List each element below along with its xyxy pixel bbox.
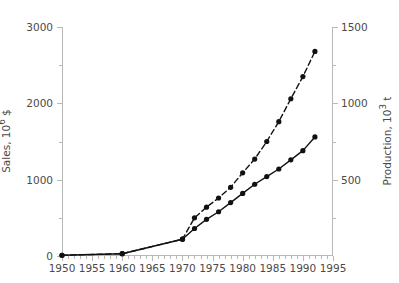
x-tick-minor	[158, 256, 159, 259]
x-tick-minor	[86, 256, 87, 259]
data-point-sales	[216, 195, 221, 200]
data-point-production	[288, 157, 293, 162]
y-tick-label-right: 1000	[341, 97, 368, 109]
data-point-production	[228, 200, 233, 205]
data-point-sales	[252, 156, 257, 161]
y-tick-right	[333, 103, 338, 104]
x-tick-minor	[219, 256, 220, 259]
x-tick-minor	[207, 256, 208, 259]
data-point-production	[59, 253, 64, 258]
x-tick-minor	[68, 256, 69, 259]
data-point-production	[312, 134, 317, 139]
data-point-production	[276, 166, 281, 171]
chart-figure: 0100020003000500100015001950195519601965…	[0, 0, 399, 283]
data-point-sales	[204, 205, 209, 210]
y-axis-right-title: Production, 103 t	[378, 97, 393, 186]
y-axis-right-title-text: Production, 10	[381, 110, 393, 186]
x-tick-minor	[297, 256, 298, 259]
x-tick-minor	[104, 256, 105, 259]
x-tick-minor	[188, 256, 189, 259]
data-point-production	[180, 237, 185, 242]
y-tick-label-left: 0	[0, 250, 53, 262]
data-point-sales	[300, 74, 305, 79]
y-axis-left-title: Sales, 106 $	[0, 109, 12, 173]
x-tick-label: 1965	[139, 262, 166, 274]
x-tick-minor	[327, 256, 328, 259]
x-tick-minor	[74, 256, 75, 259]
x-tick-label: 1970	[169, 262, 196, 274]
x-tick-minor	[309, 256, 310, 259]
x-tick-minor	[261, 256, 262, 259]
data-point-production	[252, 182, 257, 187]
y-tick-right	[333, 27, 338, 28]
x-tick-minor	[80, 256, 81, 259]
y-tick-label-left: 1000	[0, 174, 53, 186]
y-tick-label-right: 1500	[341, 21, 368, 33]
x-tick-minor	[267, 256, 268, 259]
y-tick-label-right: 500	[341, 174, 361, 186]
y-axis-right-unit: t	[381, 97, 393, 104]
x-tick-minor	[134, 256, 135, 259]
data-point-production	[192, 226, 197, 231]
data-point-sales	[192, 215, 197, 220]
x-tick-minor	[116, 256, 117, 259]
y-tick-right-minor	[333, 142, 336, 143]
data-point-sales	[264, 139, 269, 144]
y-tick-label-left: 2000	[0, 97, 53, 109]
x-tick-minor	[176, 256, 177, 259]
x-tick	[122, 256, 123, 261]
x-tick-minor	[291, 256, 292, 259]
x-tick-minor	[231, 256, 232, 259]
x-tick-minor	[110, 256, 111, 259]
y-tick-right	[333, 180, 338, 181]
data-point-sales	[288, 96, 293, 101]
x-tick-label: 1990	[290, 262, 317, 274]
series-line-production	[62, 137, 315, 255]
y-tick-right-minor	[333, 65, 336, 66]
x-tick	[213, 256, 214, 261]
data-point-production	[300, 148, 305, 153]
x-tick-minor	[128, 256, 129, 259]
x-tick-minor	[321, 256, 322, 259]
y-tick-label-left: 3000	[0, 21, 53, 33]
x-tick-label: 1960	[109, 262, 136, 274]
data-point-sales	[240, 170, 245, 175]
x-tick-minor	[279, 256, 280, 259]
data-point-production	[264, 174, 269, 179]
x-tick-label: 1955	[79, 262, 106, 274]
x-tick-label: 1980	[229, 262, 256, 274]
x-tick	[243, 256, 244, 261]
x-tick-minor	[315, 256, 316, 259]
x-tick-minor	[201, 256, 202, 259]
data-point-sales	[228, 185, 233, 190]
plot-area	[62, 27, 333, 256]
y-axis-left-unit: $	[0, 109, 12, 119]
x-tick-minor	[140, 256, 141, 259]
y-axis-left-title-text: Sales, 10	[0, 125, 12, 173]
x-tick-label: 1995	[320, 262, 347, 274]
x-tick-minor	[249, 256, 250, 259]
data-point-sales	[276, 119, 281, 124]
data-point-production	[204, 217, 209, 222]
data-point-production	[216, 209, 221, 214]
y-tick-right-minor	[333, 218, 336, 219]
x-tick	[152, 256, 153, 261]
y-axis-left-exponent: 6	[0, 119, 7, 125]
x-tick-minor	[164, 256, 165, 259]
data-point-sales	[312, 49, 317, 54]
x-tick-label: 1985	[259, 262, 286, 274]
x-tick-minor	[194, 256, 195, 259]
x-tick-minor	[237, 256, 238, 259]
x-tick	[273, 256, 274, 261]
x-tick-minor	[225, 256, 226, 259]
x-tick-label: 1950	[49, 262, 76, 274]
x-tick	[92, 256, 93, 261]
x-tick-minor	[285, 256, 286, 259]
series-plot	[62, 27, 333, 256]
x-tick-label: 1975	[199, 262, 226, 274]
x-tick	[182, 256, 183, 261]
x-tick-minor	[98, 256, 99, 259]
x-tick-minor	[170, 256, 171, 259]
x-tick-minor	[255, 256, 256, 259]
x-tick	[303, 256, 304, 261]
